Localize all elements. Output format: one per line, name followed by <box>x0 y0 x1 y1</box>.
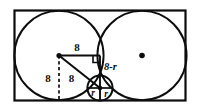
geometry-canvas: 8 8 8 8-r r r <box>0 0 197 110</box>
label-hypotenuse: 8 <box>69 72 75 84</box>
right-circle-center-dot <box>139 53 145 59</box>
label-vertical-gap: 8-r <box>104 61 118 72</box>
geometry-figure: 8 8 8 8-r r r <box>0 0 197 110</box>
hypotenuse-segment <box>59 56 100 89</box>
label-vertical-dashed: 8 <box>45 72 51 84</box>
left-circle-center-dot <box>56 53 61 58</box>
label-small-radius-left: r <box>91 88 95 98</box>
small-circle-center-dot <box>98 86 103 91</box>
label-horizontal-radius: 8 <box>74 41 80 53</box>
label-small-radius-right: r <box>104 89 108 99</box>
